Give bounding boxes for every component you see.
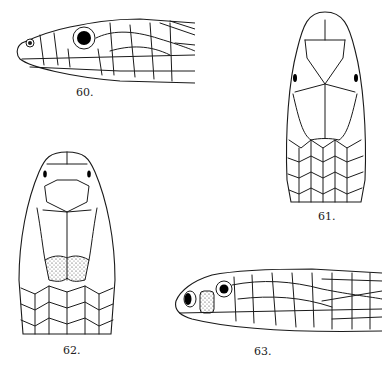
figure-label-61: 61. [318, 210, 336, 223]
figure-label-63: 63. [254, 345, 272, 358]
figure-61-dorsal-head: 61. [283, 10, 368, 210]
snake-head-lateral-drawing [10, 15, 195, 85]
snake-head-dorsal-drawing [283, 10, 368, 205]
figure-63-lateral-head: 63. [172, 265, 382, 360]
stippled-parietal-scales [45, 256, 89, 281]
snake-head-lateral-stippled-drawing [172, 265, 382, 335]
figure-label-62: 62. [63, 344, 81, 357]
figure-label-60: 60. [76, 86, 94, 99]
illustration-plate: 60. 61. [0, 0, 391, 365]
stippled-loreal-scale [200, 291, 214, 313]
figure-62-dorsal-head: 62. [15, 150, 120, 350]
snake-head-dorsal-stippled-drawing [15, 150, 120, 335]
figure-60-lateral-head: 60. [10, 15, 195, 85]
